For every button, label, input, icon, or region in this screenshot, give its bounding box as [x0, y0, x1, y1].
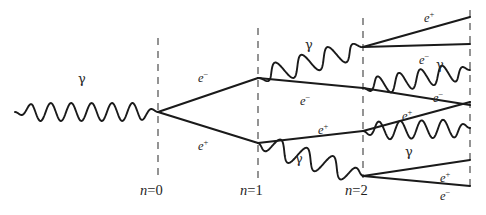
label-e-plus-gen1: e+	[318, 124, 328, 137]
generation-value: =2	[352, 182, 367, 198]
label-e-minus-mid-gen2: e−	[433, 92, 443, 105]
lepton-track-group	[158, 17, 470, 186]
label-e-plus-bot-gen2: e+	[440, 172, 450, 185]
generation-value: =0	[147, 182, 162, 198]
label-gamma-incoming: γ	[78, 72, 86, 85]
track-e-plus-bot-out	[363, 160, 470, 176]
generation-boundary-lines	[158, 10, 470, 190]
photon-gamma-incoming-wave	[15, 103, 158, 121]
label-charge: −	[306, 92, 311, 102]
label-gamma-bot-gen2: γ	[405, 145, 413, 158]
label-e-minus-gen0: e−	[198, 72, 208, 85]
photon-gamma-bot-2-out	[363, 120, 470, 139]
generation-label-n1: n=1	[240, 183, 263, 198]
label-charge: −	[425, 51, 430, 61]
generation-label-n2: n=2	[345, 183, 368, 198]
label-charge: +	[204, 137, 209, 147]
label-charge: −	[439, 89, 444, 99]
track-e-minus-1-2	[258, 78, 363, 88]
shower-diagram: γe−e+γe−e+γe+e−γe−e+γe+e−n=0n=1n=2	[0, 0, 486, 215]
label-gamma-top-gen1: γ	[305, 38, 313, 51]
label-e-plus-mid-gen2: e+	[402, 110, 412, 123]
label-gamma-top-gen2: γ	[436, 58, 444, 71]
track-e-plus-1-2	[258, 131, 363, 143]
track-e-minus-mid-out	[363, 88, 470, 105]
label-charge: +	[430, 9, 435, 19]
track-e-minus-bot-out	[363, 176, 470, 186]
generation-label-n0: n=0	[140, 183, 163, 198]
label-e-minus-gen1: e−	[300, 95, 310, 108]
label-e-plus-gen0: e+	[198, 140, 208, 153]
label-charge: +	[446, 169, 451, 179]
label-e-minus-bot-gen2: e−	[440, 190, 450, 203]
label-charge: −	[446, 187, 451, 197]
generation-value: =1	[247, 182, 262, 198]
label-e-minus-top-gen2: e−	[419, 54, 429, 67]
label-charge: +	[324, 121, 329, 131]
track-e-plus-top-out	[363, 17, 470, 47]
label-charge: −	[204, 69, 209, 79]
photon-gamma-bot-1-2	[258, 140, 363, 180]
label-gamma-bot-gen1: γ	[295, 152, 303, 165]
photon-gamma-top-2-out	[363, 66, 470, 93]
label-charge: +	[408, 107, 413, 117]
label-e-plus-top-gen2: e+	[424, 12, 434, 25]
track-e-minus-top-out	[363, 44, 470, 47]
